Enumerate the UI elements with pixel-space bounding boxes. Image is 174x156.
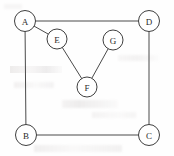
diagram-canvas: ADEGFBC: [0, 0, 174, 156]
graph-node[interactable]: C: [139, 125, 160, 146]
node-label: D: [146, 17, 153, 27]
graph-edge: [92, 49, 108, 79]
node-label: C: [146, 131, 152, 141]
graph-node[interactable]: A: [15, 11, 36, 32]
node-label: E: [54, 35, 60, 45]
graph-node[interactable]: B: [16, 125, 37, 146]
graph-edge: [62, 47, 81, 78]
graph-edge: [34, 26, 48, 34]
node-label: B: [23, 131, 29, 141]
node-label: A: [22, 17, 29, 27]
graph-node[interactable]: E: [47, 29, 67, 49]
graph-node[interactable]: G: [103, 30, 123, 50]
node-label: F: [84, 83, 89, 93]
graph-node[interactable]: D: [139, 11, 160, 32]
graph-edge: [25, 32, 26, 125]
graph-node[interactable]: F: [77, 77, 97, 97]
graph-svg: ADEGFBC: [0, 0, 174, 156]
node-layer: ADEGFBC: [15, 11, 160, 146]
node-label: G: [110, 36, 117, 46]
